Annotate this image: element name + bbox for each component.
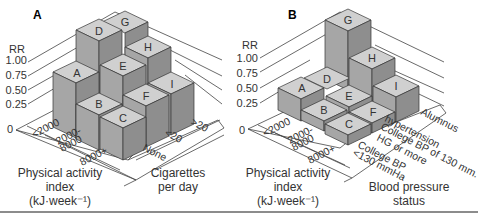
- z-tick: None: [141, 141, 169, 163]
- svg-text:I: I: [394, 80, 397, 92]
- svg-text:I: I: [170, 78, 173, 90]
- svg-text:A: A: [298, 82, 306, 94]
- y-tick: 0.25: [237, 97, 258, 109]
- panel-b: B RR 1.00 0.75 0.50 0.25 0: [237, 8, 481, 208]
- y-tick: 0: [239, 124, 245, 136]
- svg-text:C: C: [119, 112, 127, 124]
- y-tick: 0.50: [237, 82, 258, 94]
- svg-text:E: E: [345, 90, 352, 102]
- z-axis-title: status: [393, 194, 425, 208]
- panel-a-letter: A: [33, 8, 42, 22]
- z-axis-title: Blood pressure: [369, 180, 450, 194]
- svg-text:D: D: [95, 25, 103, 37]
- svg-text:G: G: [121, 16, 130, 28]
- y-tick: 0: [7, 123, 13, 135]
- svg-text:H: H: [144, 41, 152, 53]
- y-tick: 1.00: [6, 54, 27, 66]
- x-axis-units: (kJ·week⁻¹): [257, 194, 319, 208]
- y-tick: 1.00: [237, 52, 258, 64]
- x-axis-units: (kJ·week⁻¹): [29, 194, 91, 208]
- panel-a: A RR 1.00 0.75 0.50 0.25 0: [6, 8, 224, 208]
- svg-text:H: H: [368, 52, 376, 64]
- y-tick: 0.50: [6, 84, 27, 96]
- x-axis-title: Physical activity: [18, 166, 103, 180]
- figure: A RR 1.00 0.75 0.50 0.25 0: [0, 0, 494, 216]
- y-tick: 0.75: [237, 67, 258, 79]
- panel-b-letter: B: [288, 8, 297, 22]
- z-axis-title: per day: [158, 180, 198, 194]
- x-tick: 8000+: [305, 142, 337, 166]
- x-axis-title: index: [274, 180, 303, 194]
- y-axis-label: RR: [242, 39, 258, 51]
- y-tick: 0.75: [6, 69, 27, 81]
- x-axis-title: Physical activity: [246, 166, 331, 180]
- svg-text:F: F: [143, 90, 150, 102]
- svg-text:C: C: [345, 118, 353, 130]
- svg-text:E: E: [119, 60, 126, 72]
- z-axis-title: Cigarettes: [151, 166, 206, 180]
- svg-text:F: F: [370, 106, 377, 118]
- svg-text:B: B: [320, 104, 327, 116]
- svg-text:B: B: [95, 98, 102, 110]
- svg-text:A: A: [73, 67, 81, 79]
- y-tick: 0.25: [6, 98, 27, 110]
- svg-text:G: G: [344, 14, 353, 26]
- svg-text:D: D: [323, 73, 331, 85]
- x-axis-title: index: [46, 180, 75, 194]
